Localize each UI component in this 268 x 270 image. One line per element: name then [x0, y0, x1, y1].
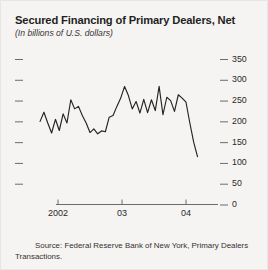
data-series-line: [40, 86, 197, 156]
y-axis-tick-label: 50: [232, 178, 242, 188]
y-axis-tick-label: 150: [232, 137, 247, 147]
left-tick-marks: [15, 60, 23, 185]
y-axis-tick-label: 300: [232, 74, 247, 84]
y-axis-tick-label: 200: [232, 116, 247, 126]
y-axis-tick-label: 250: [232, 95, 247, 105]
chart-figure: Secured Financing of Primary Dealers, Ne…: [0, 0, 268, 270]
source-text: Source: Federal Reserve Bank of New York…: [15, 241, 248, 261]
x-axis-tick-marks: [58, 200, 186, 205]
y-axis-tick-label: 0: [232, 199, 237, 209]
plot-area: [1, 1, 268, 270]
x-axis-tick-label: 03: [102, 208, 142, 218]
y-axis-tick-label: 100: [232, 157, 247, 167]
source-note: Source: Federal Reserve Bank of New York…: [15, 241, 255, 262]
y-axis-tick-label: 350: [232, 54, 247, 64]
x-axis-tick-label: 04: [166, 208, 206, 218]
right-tick-marks: [220, 60, 228, 206]
x-axis-tick-label: 2002: [38, 208, 78, 218]
